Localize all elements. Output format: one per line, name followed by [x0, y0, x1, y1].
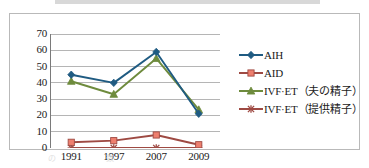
legend-point [248, 51, 255, 58]
legend-item-AIH: AIH [238, 46, 369, 64]
series-IVF·ET（提供精子） [68, 144, 203, 148]
legend-marker-triangle-icon [238, 83, 264, 99]
chart-figure-frame: 010203040506070 1991199720072009 AIHAIDI… [9, 13, 360, 150]
y-tick-label-40: 40 [21, 77, 47, 88]
chart-legend: AIHAIDIVF·ET（夫の精子）IVF·ET（提供精子） [238, 46, 369, 118]
legend-marker-star-icon [238, 101, 264, 117]
legend-label: IVF·ET（夫の精子） [264, 85, 362, 97]
legend-item-IVF·ET（夫の精子）: IVF·ET（夫の精子） [238, 82, 369, 100]
top-gray-band [55, 0, 320, 4]
legend-label: IVF·ET（提供精子） [264, 103, 362, 115]
data-point-AID-1991 [68, 139, 74, 145]
legend-item-IVF·ET（提供精子）: IVF·ET（提供精子） [238, 100, 369, 118]
y-tick-label-30: 30 [21, 93, 47, 104]
legend-point [248, 70, 254, 76]
chart-plot-svg [50, 34, 220, 148]
legend-point [247, 105, 254, 112]
data-point-AIH-1991 [68, 71, 75, 78]
y-tick-label-0: 0 [21, 142, 47, 153]
legend-label: AIH [264, 49, 283, 61]
series-AID [68, 132, 202, 148]
data-point-AID-1997 [111, 138, 117, 144]
y-tick-label-60: 60 [21, 44, 47, 55]
legend-marker-diamond-icon [238, 47, 264, 63]
legend-item-AID: AID [238, 64, 369, 82]
series-line-AID [71, 135, 199, 145]
y-axis-tick-labels: 010203040506070 [19, 34, 47, 148]
y-tick-label-50: 50 [21, 61, 47, 72]
legend-label: AID [264, 67, 283, 79]
data-point-IVF·ET（提供精子）-1997 [110, 144, 117, 148]
y-tick-label-70: 70 [21, 28, 47, 39]
series-IVF·ET（夫の精子） [67, 55, 202, 113]
caption-fragment: の 数 [14, 154, 364, 164]
data-point-AID-2009 [196, 142, 202, 148]
plot-area [50, 34, 220, 148]
data-point-AID-2007 [153, 132, 159, 138]
y-tick-label-10: 10 [21, 126, 47, 137]
legend-marker-square-icon [238, 65, 264, 81]
data-point-IVF·ET（提供精子）-2007 [153, 144, 160, 148]
y-tick-label-20: 20 [21, 109, 47, 120]
